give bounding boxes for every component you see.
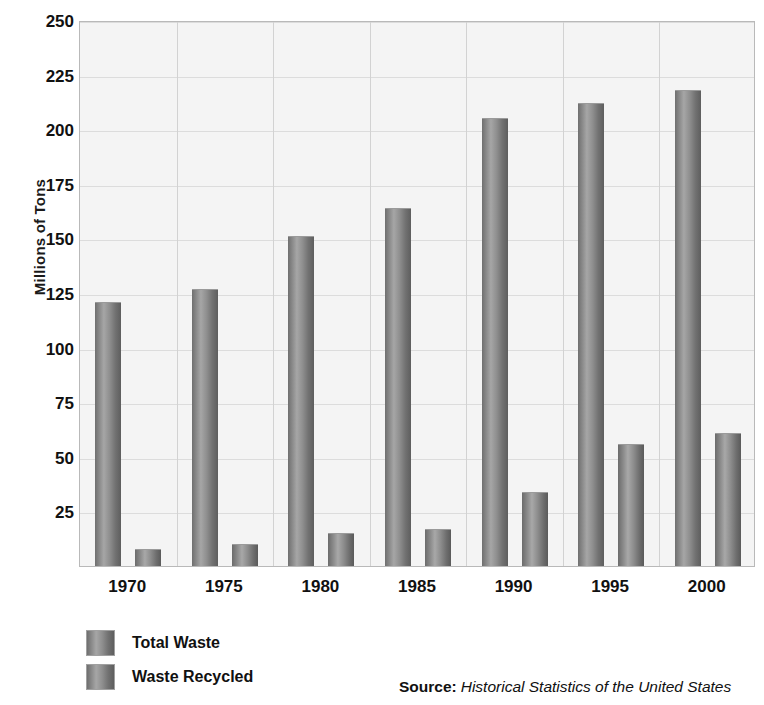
x-axis-tick-labels: 1970197519801985199019952000	[79, 578, 755, 604]
y-axis-tick-label: 75	[24, 395, 74, 412]
gridline-horizontal	[80, 295, 754, 296]
bar-total-waste	[288, 236, 314, 566]
gridline-vertical	[466, 22, 467, 566]
y-axis-tick-label: 175	[24, 177, 74, 194]
gridline-vertical	[177, 22, 178, 566]
bar-total-waste	[675, 90, 701, 566]
gridline-horizontal	[80, 186, 754, 187]
chart-plot-area	[79, 21, 755, 567]
source-note: Source:Historical Statistics of the Unit…	[399, 678, 731, 696]
x-axis-tick-label: 2000	[658, 578, 755, 597]
bar-waste-recycled	[425, 529, 451, 566]
bar-waste-recycled	[715, 433, 741, 566]
gridline-horizontal	[80, 459, 754, 460]
bar-waste-recycled	[135, 549, 161, 566]
y-axis-tick-label: 150	[24, 231, 74, 248]
gridline-vertical	[563, 22, 564, 566]
gridline-horizontal	[80, 513, 754, 514]
x-axis-tick-label: 1990	[465, 578, 562, 597]
x-axis-tick-label: 1970	[79, 578, 176, 597]
y-axis-tick-labels: 250225200175150125100755025	[24, 0, 74, 580]
chart-legend: Total Waste Waste Recycled	[86, 628, 253, 696]
y-axis-tick-label: 200	[24, 122, 74, 139]
legend-item-label: Total Waste	[132, 634, 220, 652]
x-axis-tick-label: 1975	[176, 578, 273, 597]
y-axis-tick-label: 50	[24, 450, 74, 467]
y-axis-tick-label: 225	[24, 68, 74, 85]
gridline-horizontal	[80, 404, 754, 405]
y-axis-tick-label: 25	[24, 504, 74, 521]
y-axis-tick-label: 125	[24, 286, 74, 303]
gridline-horizontal	[80, 77, 754, 78]
source-label: Source:	[399, 678, 457, 695]
bar-total-waste	[578, 103, 604, 566]
gridline-vertical	[370, 22, 371, 566]
legend-swatch-icon	[86, 630, 115, 656]
bar-total-waste	[95, 302, 121, 566]
x-axis-tick-label: 1995	[562, 578, 659, 597]
gridline-horizontal	[80, 350, 754, 351]
legend-item-total-waste[interactable]: Total Waste	[86, 628, 253, 658]
bar-waste-recycled	[522, 492, 548, 566]
gridline-horizontal	[80, 22, 754, 23]
bar-waste-recycled	[618, 444, 644, 566]
bar-total-waste	[482, 118, 508, 566]
gridline-vertical	[273, 22, 274, 566]
y-axis-tick-label: 100	[24, 341, 74, 358]
gridline-horizontal	[80, 131, 754, 132]
x-axis-tick-label: 1985	[369, 578, 466, 597]
legend-swatch-icon	[86, 664, 115, 690]
source-text: Historical Statistics of the United Stat…	[461, 678, 732, 695]
gridline-vertical	[659, 22, 660, 566]
legend-item-waste-recycled[interactable]: Waste Recycled	[86, 662, 253, 692]
bar-waste-recycled	[232, 544, 258, 566]
bar-waste-recycled	[328, 533, 354, 566]
x-axis-tick-label: 1980	[272, 578, 369, 597]
bar-total-waste	[385, 208, 411, 566]
legend-item-label: Waste Recycled	[132, 668, 253, 686]
bar-total-waste	[192, 289, 218, 566]
y-axis-tick-label: 250	[24, 13, 74, 30]
gridline-horizontal	[80, 240, 754, 241]
